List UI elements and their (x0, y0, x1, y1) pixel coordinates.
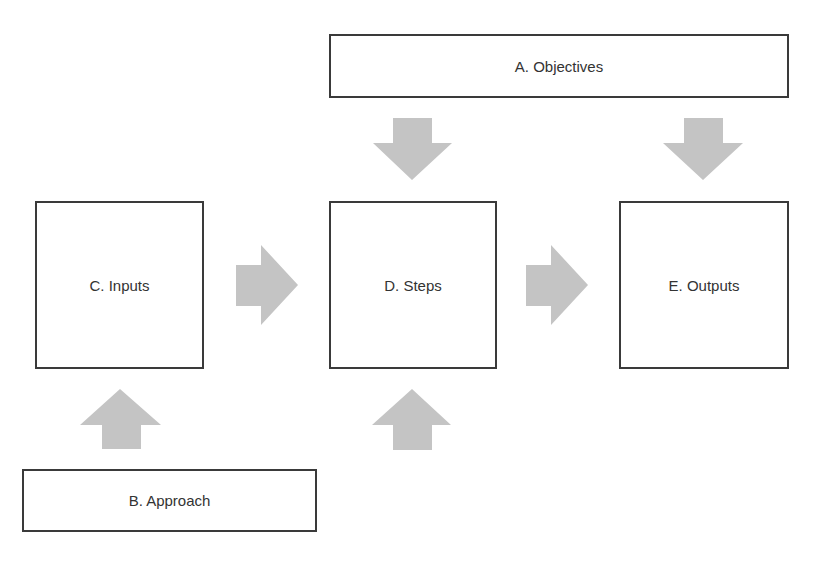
arrow-right-icon (236, 245, 298, 325)
inputs-label: C. Inputs (89, 277, 149, 294)
outputs-box: E. Outputs (619, 201, 789, 369)
steps-box: D. Steps (329, 201, 497, 369)
approach-label: B. Approach (129, 492, 211, 509)
objectives-box: A. Objectives (329, 34, 789, 98)
arrow-right-icon (526, 245, 588, 325)
arrow-down-icon (663, 118, 743, 180)
objectives-label: A. Objectives (515, 58, 603, 75)
inputs-box: C. Inputs (35, 201, 204, 369)
steps-label: D. Steps (384, 277, 442, 294)
arrow-up-icon (372, 389, 451, 450)
approach-box: B. Approach (22, 469, 317, 532)
arrow-down-icon (373, 118, 452, 180)
arrow-up-icon (80, 389, 161, 449)
outputs-label: E. Outputs (669, 277, 740, 294)
